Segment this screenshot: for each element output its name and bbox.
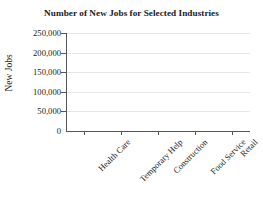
- x-tick-mark-retail: [232, 132, 233, 135]
- x-tick-mark-health-care: [84, 132, 85, 135]
- chart-figure: Number of New Jobs for Selected Industri…: [0, 0, 263, 207]
- gridline-250000: [66, 33, 250, 34]
- y-tick-mark-50000: [61, 111, 66, 112]
- chart-title: Number of New Jobs for Selected Industri…: [0, 8, 263, 18]
- y-tick-label-250000: 250,000: [1, 28, 61, 38]
- gridline-50000: [66, 111, 250, 112]
- plot-area: [66, 33, 250, 131]
- y-tick-mark-150000: [61, 72, 66, 73]
- y-tick-mark-250000: [61, 33, 66, 34]
- gridline-200000: [66, 53, 250, 54]
- y-tick-label-0: 0: [1, 126, 61, 136]
- x-tick-label-food-service: Food Service: [208, 137, 247, 176]
- gridline-100000: [66, 92, 250, 93]
- gridline-150000: [66, 72, 250, 73]
- x-tick-mark-construction: [158, 132, 159, 135]
- x-tick-mark-food-service: [195, 132, 196, 135]
- y-tick-label-100000: 100,000: [1, 87, 61, 97]
- y-tick-mark-200000: [61, 53, 66, 54]
- y-axis-line: [66, 33, 67, 132]
- y-tick-label-150000: 150,000: [1, 67, 61, 77]
- y-tick-label-50000: 50,000: [1, 106, 61, 116]
- x-tick-mark-temporary-help: [121, 132, 122, 135]
- y-tick-mark-100000: [61, 92, 66, 93]
- y-tick-label-200000: 200,000: [1, 48, 61, 58]
- x-tick-label-health-care: Health Care: [96, 137, 132, 173]
